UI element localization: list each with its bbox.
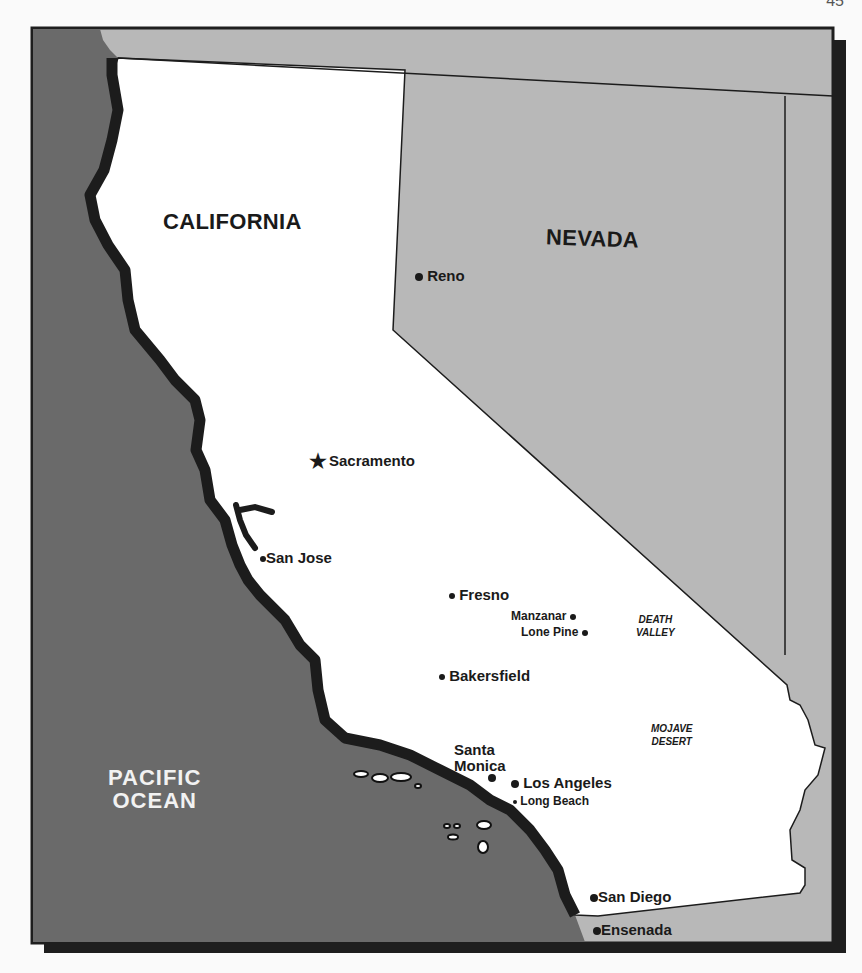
city-reno: Reno xyxy=(415,268,465,283)
city-long-beach: Long Beach xyxy=(513,795,589,807)
city-dot-icon xyxy=(439,674,445,680)
city-dot-icon xyxy=(582,630,588,636)
city-san-diego: San Diego xyxy=(590,889,671,904)
region-line2: VALLEY xyxy=(636,627,675,640)
city-dot-icon xyxy=(590,894,598,902)
california-map: CALIFORNIA NEVADA PACIFIC OCEAN DEATH VA… xyxy=(0,0,862,973)
city-name: Fresno xyxy=(459,586,509,603)
region-line1: DEATH xyxy=(636,614,675,627)
region-label-death-valley: DEATH VALLEY xyxy=(636,614,675,639)
city-santa-monica: Santa Monica xyxy=(454,742,506,774)
ocean-label-line2: OCEAN xyxy=(108,789,201,812)
city-dot-icon xyxy=(449,593,455,599)
city-bakersfield: Bakersfield xyxy=(439,668,530,683)
city-fresno: Fresno xyxy=(449,587,509,602)
map-graphic xyxy=(0,0,862,973)
capital-star-icon: ★ xyxy=(309,450,327,472)
ocean-label-line1: PACIFIC xyxy=(108,766,201,789)
city-dot-icon xyxy=(570,614,576,620)
city-los-angeles: Los Angeles xyxy=(511,775,612,790)
city-manzanar: Manzanar xyxy=(511,610,576,622)
city-ensenada: Ensenada xyxy=(593,922,672,937)
city-name-line1: Santa xyxy=(454,742,506,758)
city-dot-icon xyxy=(415,273,423,281)
city-dot-icon xyxy=(513,800,517,804)
state-label-nevada: NEVADA xyxy=(546,226,640,251)
city-name: San Jose xyxy=(266,549,332,566)
city-dot-icon xyxy=(511,780,519,788)
city-name-line2: Monica xyxy=(454,758,506,774)
city-sacramento: ★Sacramento xyxy=(309,451,415,471)
city-name: Reno xyxy=(427,267,465,284)
city-name: Long Beach xyxy=(520,794,589,808)
city-name: Sacramento xyxy=(329,452,415,469)
region-label-mojave-desert: MOJAVE DESERT xyxy=(651,723,693,748)
city-dot-icon-santa-monica xyxy=(488,774,496,782)
city-dot-icon xyxy=(593,927,601,935)
region-line1: MOJAVE xyxy=(651,723,693,736)
city-name: Ensenada xyxy=(601,921,672,938)
city-name: Bakersfield xyxy=(449,667,530,684)
city-san-jose: San Jose xyxy=(260,550,332,565)
state-label-california: CALIFORNIA xyxy=(163,211,302,233)
city-name: San Diego xyxy=(598,888,671,905)
city-lone-pine: Lone Pine xyxy=(521,626,588,638)
ocean-label: PACIFIC OCEAN xyxy=(108,766,201,812)
region-line2: DESERT xyxy=(651,736,693,749)
city-name: Lone Pine xyxy=(521,625,578,639)
city-name: Los Angeles xyxy=(523,774,612,791)
city-name: Manzanar xyxy=(511,609,566,623)
